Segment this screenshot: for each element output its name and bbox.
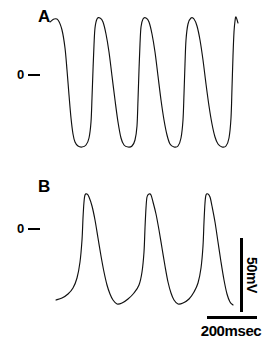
horizontal-scalebar-line xyxy=(207,316,257,319)
horizontal-scalebar-label: 200msec xyxy=(201,323,262,338)
zero-level-marker-a: 0 xyxy=(17,68,40,81)
dash-tick-icon xyxy=(28,228,40,230)
electrophysiology-traces-svg xyxy=(0,0,278,351)
vertical-scalebar: 50mV xyxy=(240,238,259,312)
trace-b-waveform xyxy=(56,194,233,305)
trace-a-waveform xyxy=(50,17,238,147)
vertical-scalebar-label: 50mV xyxy=(245,257,259,293)
figure-container: A B 0 0 50mV 200msec xyxy=(0,0,278,351)
dash-tick-icon xyxy=(28,74,40,76)
vertical-scalebar-line xyxy=(240,238,243,312)
zero-value-b: 0 xyxy=(17,222,24,235)
zero-value-a: 0 xyxy=(17,68,24,81)
zero-level-marker-b: 0 xyxy=(17,222,40,235)
panel-b-label: B xyxy=(38,178,50,195)
horizontal-scalebar: 200msec xyxy=(186,316,276,338)
panel-a-label: A xyxy=(38,8,50,25)
